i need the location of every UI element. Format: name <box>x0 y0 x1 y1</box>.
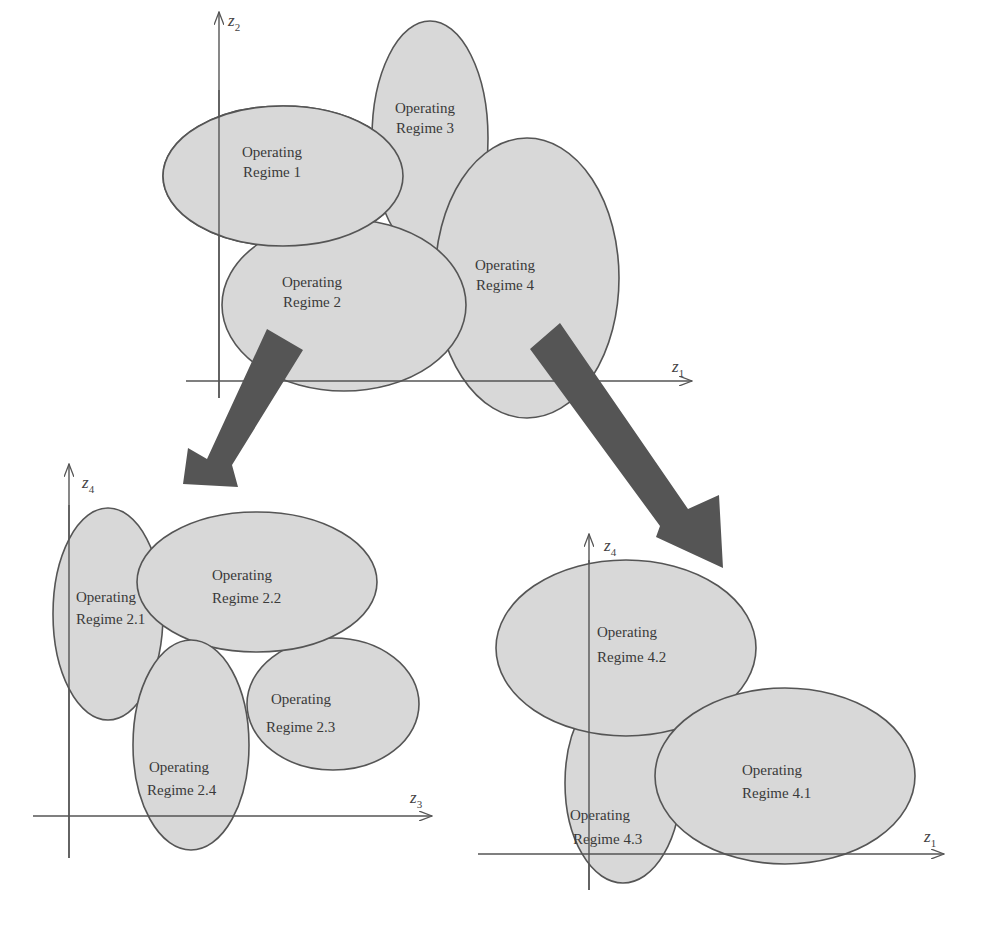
region-2-4-label-line1: Operating <box>149 759 209 775</box>
region-4-2-label-line1: Operating <box>597 624 657 640</box>
region-4-2-label-line2: Regime 4.2 <box>597 649 666 665</box>
region-2-1-label-line2: Regime 2.1 <box>76 611 145 627</box>
arrow-regime4-to-subplot <box>530 323 723 568</box>
top-plot: z2 Operating Regime 1 Operating Regime 2… <box>163 11 692 418</box>
region-2-2-label-line1: Operating <box>212 567 272 583</box>
top-x-axis-label: z1 <box>671 357 684 379</box>
top-y-axis-label: z2 <box>227 11 240 33</box>
operating-regimes-diagram: z2 Operating Regime 1 Operating Regime 2… <box>0 0 983 946</box>
region-4-3-label-line1: Operating <box>570 807 630 823</box>
region-2-1-label-line1: Operating <box>76 589 136 605</box>
region-3-label-line2: Regime 3 <box>396 120 454 136</box>
region-3-label-line1: Operating <box>395 100 455 116</box>
region-1-label-line2: Regime 1 <box>243 164 301 180</box>
region-4-3-label-line2: Regime 4.3 <box>573 831 642 847</box>
region-2-2-label-line2: Regime 2.2 <box>212 590 281 606</box>
region-4-1-label-line1: Operating <box>742 762 802 778</box>
region-4-label-line1: Operating <box>475 257 535 273</box>
region-1-label-line1: Operating <box>242 144 302 160</box>
bottom-left-plot: z4 Operating Regime 2.1 Operating Regime… <box>33 464 432 858</box>
region-2-3-label-line2: Regime 2.3 <box>266 719 335 735</box>
bl-x-axis-label: z3 <box>409 788 423 810</box>
br-y-axis-label: z4 <box>603 536 617 558</box>
region-4-label-line2: Regime 4 <box>476 277 534 293</box>
region-2-label-line2: Regime 2 <box>283 294 341 310</box>
bottom-right-plot: z4 Operating Regime 4.1 Operating Regime… <box>478 534 944 890</box>
region-2-4 <box>133 640 249 850</box>
region-4-1-label-line2: Regime 4.1 <box>742 785 811 801</box>
region-2-4-label-line2: Regime 2.4 <box>147 782 217 798</box>
region-2-label-line1: Operating <box>282 274 342 290</box>
bl-y-axis-label: z4 <box>81 473 95 495</box>
br-x-axis-label: z1 <box>923 827 936 849</box>
region-2-3-label-line1: Operating <box>271 691 331 707</box>
